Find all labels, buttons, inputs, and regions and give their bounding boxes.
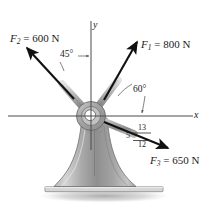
angle-60-label: 60° — [133, 85, 146, 95]
force-unit-F3: N — [191, 154, 199, 166]
x-axis-label: x — [194, 110, 198, 120]
force-magnitude-F1: 800 — [163, 38, 180, 50]
slope-vertical-label: 5 — [126, 132, 130, 140]
y-axis-label: y — [93, 20, 97, 30]
force-label-F1: F1 = 800 N — [141, 39, 190, 52]
force-diagram-figure: F2 = 600 N F1 = 800 N F3 = 650 N y x 45°… — [0, 0, 224, 208]
force-label-F3: F3 = 650 N — [150, 155, 199, 168]
force-symbol-F1: F — [141, 38, 148, 50]
force-symbol-F2: F — [10, 32, 17, 44]
force-label-F2: F2 = 600 N — [10, 33, 59, 46]
force-unit-F1: N — [182, 38, 190, 50]
force-unit-F2: N — [51, 32, 59, 44]
base-plate — [45, 187, 163, 192]
angle-45-label: 45° — [60, 50, 73, 60]
force-symbol-F3: F — [150, 154, 157, 166]
slope-horizontal-label: 12 — [138, 141, 146, 149]
force-magnitude-F2: 600 — [32, 32, 49, 44]
slope-hypotenuse-label: 13 — [138, 124, 146, 132]
force-magnitude-F3: 650 — [172, 154, 189, 166]
force-vector-F3 — [104, 122, 168, 148]
